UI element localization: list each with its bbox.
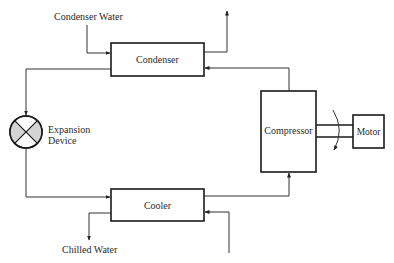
chilled-water-return-line	[205, 212, 229, 253]
compressor-box: Compressor	[261, 91, 316, 172]
expansion-device-label-line2: Device	[48, 135, 77, 146]
drive-shaft	[316, 125, 353, 137]
compressor-discharge-line	[205, 68, 289, 91]
cooler-to-compressor-line	[204, 173, 289, 196]
condenser-box: Condenser	[111, 43, 204, 76]
cooler-box: Cooler	[111, 189, 204, 221]
condenser-label: Condenser	[136, 54, 179, 65]
refrigeration-cycle-diagram: Condenser Water Chilled Water Condenser …	[0, 0, 394, 263]
expansion-valve-icon	[10, 116, 42, 148]
condenser-water-outlet-line	[204, 11, 227, 52]
cooler-label: Cooler	[144, 200, 172, 211]
condenser-to-expansion-line	[26, 69, 111, 115]
chilled-water-outlet-line	[89, 213, 111, 240]
condenser-water-inlet-line	[87, 25, 110, 53]
rotation-arrow-icon	[333, 110, 339, 150]
chilled-water-label: Chilled Water	[62, 244, 118, 255]
motor-label: Motor	[357, 127, 382, 137]
expansion-device-label-line1: Expansion	[48, 124, 90, 135]
expansion-to-cooler-line	[26, 148, 110, 197]
compressor-label: Compressor	[264, 125, 313, 136]
motor-box: Motor	[353, 115, 384, 148]
condenser-water-label: Condenser Water	[54, 11, 123, 22]
